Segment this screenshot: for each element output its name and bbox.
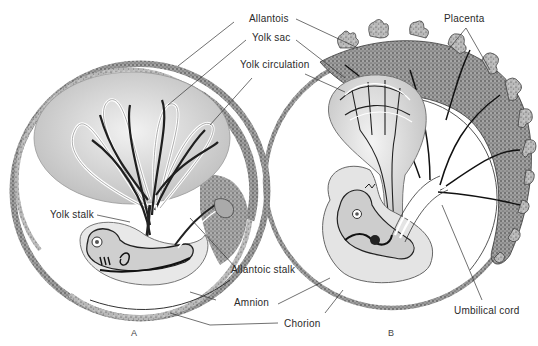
label-placenta: Placenta bbox=[444, 13, 485, 25]
label-amnion: Amnion bbox=[234, 297, 269, 309]
panel-letter-b: B bbox=[388, 328, 394, 338]
label-chorion: Chorion bbox=[284, 318, 320, 330]
label-yolk-circulation: Yolk circulation bbox=[240, 59, 310, 71]
embryo-membranes-diagram bbox=[0, 0, 538, 346]
panel-letter-a: A bbox=[131, 328, 137, 338]
label-umbilical-cord: Umbilical cord bbox=[454, 305, 520, 317]
label-yolk-sac: Yolk sac bbox=[252, 32, 290, 44]
label-yolk-stalk: Yolk stalk bbox=[50, 209, 94, 221]
panel-a bbox=[13, 64, 267, 318]
label-allantoic-stalk: Allantoic stalk bbox=[231, 264, 295, 276]
label-allantois: Allantois bbox=[249, 13, 289, 25]
